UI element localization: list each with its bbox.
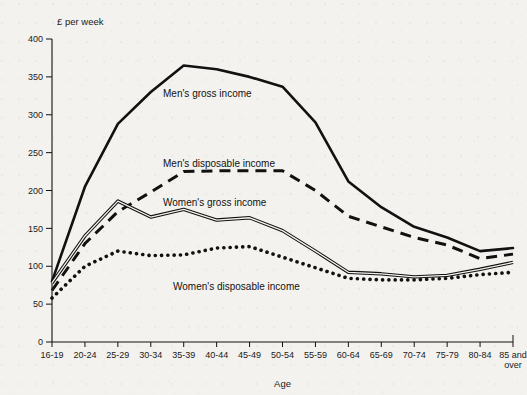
x-axis-tick-label: 40-44 bbox=[205, 350, 228, 360]
y-axis-unit-label: £ per week bbox=[57, 16, 104, 27]
x-axis-tick-label: 35-39 bbox=[172, 350, 195, 360]
x-axis-title: Age bbox=[274, 378, 291, 389]
chart-canvas: £ per week05010015020025030035040016-192… bbox=[0, 0, 527, 395]
x-axis-tick-label: 25-29 bbox=[106, 350, 129, 360]
x-axis-tick-label: 75-79 bbox=[436, 350, 459, 360]
x-axis-tick-label: 65-69 bbox=[370, 350, 393, 360]
series-line-women-s-gross-income bbox=[52, 201, 513, 283]
y-axis-tick-label: 400 bbox=[28, 34, 43, 44]
x-axis-tick-label: 60-64 bbox=[337, 350, 360, 360]
y-axis-tick-label: 150 bbox=[28, 224, 43, 234]
x-axis-tick-label: 16-19 bbox=[40, 350, 63, 360]
x-axis-tick-label: 55-59 bbox=[304, 350, 327, 360]
x-axis-tick-label: 30-34 bbox=[139, 350, 162, 360]
x-axis-tick-label: 45-49 bbox=[238, 350, 261, 360]
series-label-men-s-gross-income: Men's gross income bbox=[163, 88, 252, 99]
y-axis-tick-label: 50 bbox=[33, 299, 43, 309]
x-axis-tick-label: 50-54 bbox=[271, 350, 294, 360]
series-line-women-s-gross-income-inner bbox=[52, 201, 513, 283]
income-by-age-line-chart: £ per week05010015020025030035040016-192… bbox=[0, 0, 527, 395]
x-axis-tick-label: 80-84 bbox=[469, 350, 492, 360]
series-label-women-s-gross-income: Women's gross income bbox=[163, 197, 267, 208]
x-axis-tick-label: 70-74 bbox=[403, 350, 426, 360]
series-line-men-s-gross-income bbox=[52, 66, 513, 282]
y-axis-tick-label: 0 bbox=[38, 337, 43, 347]
y-axis-tick-label: 300 bbox=[28, 110, 43, 120]
series-label-men-s-disposable-income: Men's disposable income bbox=[163, 158, 275, 169]
x-axis-tick-label: 85 andover bbox=[499, 350, 527, 370]
y-axis-tick-label: 350 bbox=[28, 72, 43, 82]
x-axis-tick-label: 20-24 bbox=[73, 350, 96, 360]
y-axis-tick-label: 100 bbox=[28, 261, 43, 271]
y-axis-tick-label: 200 bbox=[28, 186, 43, 196]
series-label-women-s-disposable-income: Women's disposable income bbox=[173, 281, 300, 292]
y-axis-tick-label: 250 bbox=[28, 148, 43, 158]
